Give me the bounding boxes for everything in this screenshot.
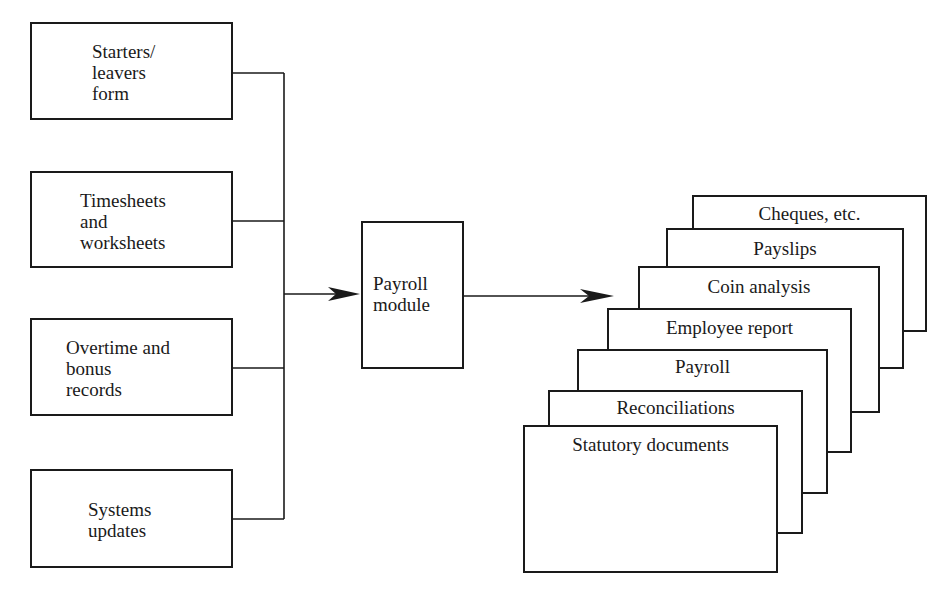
- output-label: Payroll: [579, 356, 826, 377]
- output-label: Cheques, etc.: [694, 203, 925, 224]
- input-label: Overtime and bonus records: [66, 337, 170, 400]
- output-label: Payslips: [668, 238, 902, 259]
- input-label: Timesheets and worksheets: [80, 190, 166, 253]
- output-label: Reconciliations: [550, 397, 801, 418]
- output-label: Coin analysis: [640, 276, 878, 297]
- input-label: Starters/ leavers form: [92, 41, 155, 104]
- process-label: Payroll module: [373, 273, 430, 315]
- input-box-systems-updates: Systems updates: [30, 469, 233, 568]
- input-box-timesheets: Timesheets and worksheets: [30, 171, 233, 268]
- input-box-overtime-bonus: Overtime and bonus records: [30, 318, 233, 416]
- output-label: Statutory documents: [525, 434, 776, 455]
- input-box-starters-leavers: Starters/ leavers form: [30, 22, 233, 120]
- process-box-payroll-module: Payroll module: [361, 221, 464, 369]
- output-label: Employee report: [609, 317, 850, 338]
- input-label: Systems updates: [88, 499, 151, 541]
- output-doc-statutory-documents: Statutory documents: [523, 425, 778, 573]
